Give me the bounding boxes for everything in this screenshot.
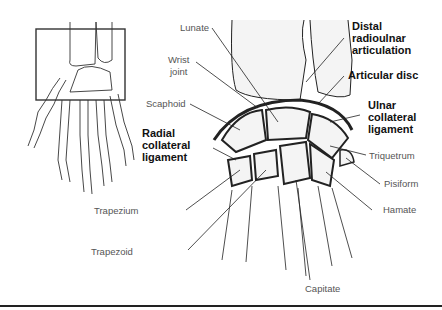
pisiform-bone [340,150,354,166]
bottom-rule [0,305,442,307]
ulna-bone [310,20,352,97]
label-pisiform: Pisiform [384,178,418,189]
label-trapezium: Trapezium [94,205,139,216]
label-articular-disc: Articular disc [348,69,418,81]
label-lunate: Lunate [180,22,209,33]
label-triquetrum: Triquetrum [369,150,415,161]
label-scaphoid: Scaphoid [146,98,186,109]
trapezoid-bone [254,150,278,180]
label-capitate: Capitate [305,283,340,294]
trapezium-bone [228,156,252,186]
lunate-bone [266,107,310,140]
label-hamate: Hamate [383,204,416,215]
label-ulnar-collateral-ligament: Ulnar collateral ligament [368,99,416,135]
radius-bone [232,20,307,100]
label-distal-radioulnar-articulation: Distal radioulnar articulation [352,20,411,56]
label-trapezoid: Trapezoid [91,246,133,257]
label-wrist-joint-1: Wrist [168,54,189,65]
scaphoid-bone [222,110,266,152]
label-wrist-joint-2: joint [170,66,187,77]
label-radial-collateral-ligament: Radial collateral ligament [142,127,190,163]
capitate-bone [280,142,310,184]
